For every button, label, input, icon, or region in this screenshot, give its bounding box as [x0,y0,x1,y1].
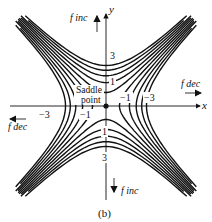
contour-label-y-neg-1: 1 [102,126,107,137]
contour-label-y-pos-3: 3 [110,50,115,61]
bottom-direction-label: f inc [121,185,139,196]
contour-label-x-pos-3: −3 [144,92,155,103]
saddle-label-line2: point [81,95,101,105]
figure-caption: (b) [98,207,111,220]
saddle-point-marker [103,103,108,108]
saddle-label-line1: Saddle [76,85,102,95]
left-direction-label: f dec [8,121,28,132]
top-direction-label: f inc [70,12,88,23]
contour-label-x-pos-1: −1 [120,92,131,103]
saddle-contour-diagram: x y Saddle point f inc f inc f dec f dec… [0,0,212,222]
x-axis-label: x [201,99,207,111]
contour-label-y-pos-1: 1 [110,76,115,87]
y-axis-label: y [108,3,114,15]
contour-label-x-neg-3: −3 [39,109,50,120]
right-direction-label: f dec [181,78,201,89]
contour-label-y-neg-3: 3 [102,152,107,163]
contour-label-x-neg-1: −1 [80,109,91,120]
